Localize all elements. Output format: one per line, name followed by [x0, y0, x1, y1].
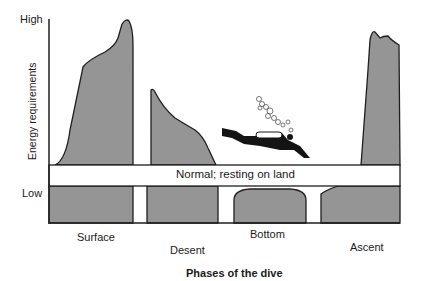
- energy-diagram: [0, 0, 421, 281]
- bottom-low-fill: [234, 189, 306, 223]
- ascent-peak: [361, 32, 400, 165]
- lower-band: [49, 186, 400, 223]
- y-axis-label: Energy requirements: [26, 63, 38, 160]
- baseline-band-label: Normal; resting on land: [176, 168, 295, 180]
- upper-peaks: [55, 20, 400, 165]
- y-tick-high: High: [20, 13, 43, 25]
- desent-peak: [151, 89, 216, 165]
- scuba-diver-icon: [222, 97, 310, 159]
- desent-low-fill: [147, 186, 218, 223]
- surface-peak: [55, 20, 133, 165]
- phase-label-ascent: Ascent: [350, 241, 384, 253]
- surface-low-fill: [49, 186, 133, 223]
- x-axis-title: Phases of the dive: [186, 267, 283, 279]
- y-tick-low: Low: [22, 187, 42, 199]
- phase-label-surface: Surface: [77, 231, 115, 243]
- phase-label-bottom: Bottom: [250, 228, 285, 240]
- ascent-low-fill: [321, 186, 400, 223]
- phase-label-desent: Desent: [170, 244, 205, 256]
